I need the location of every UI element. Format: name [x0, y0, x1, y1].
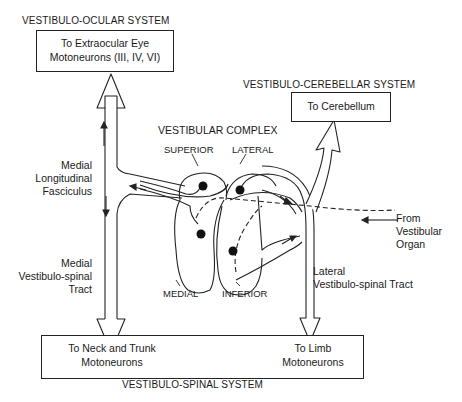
label-leader-lines — [0, 0, 462, 402]
mlf-label-3: Fasciculus — [0, 185, 92, 198]
mvst-label-2: Vestibulo-spinal — [0, 270, 92, 283]
mlf-label-1: Medial — [0, 159, 92, 172]
input-label-3: Organ — [396, 238, 425, 251]
lvst-label-2: Vestibulo-spinal Tract — [313, 278, 413, 291]
mvst-label-1: Medial — [0, 257, 92, 270]
mlf-label-2: Longitudinal — [0, 172, 92, 185]
input-label-1: From — [396, 212, 421, 225]
mvst-label-3: Tract — [0, 283, 92, 296]
lvst-label-1: Lateral — [313, 265, 345, 278]
input-label-2: Vestibular — [396, 225, 442, 238]
